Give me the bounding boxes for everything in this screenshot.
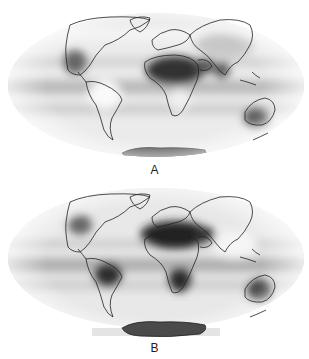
map-panel-a: A [0, 0, 309, 180]
panel-label-b: B [0, 341, 309, 355]
world-map-a [0, 0, 309, 165]
map-panel-b: B [0, 180, 309, 359]
panel-label-a: A [0, 163, 309, 177]
world-map-b [0, 180, 309, 342]
